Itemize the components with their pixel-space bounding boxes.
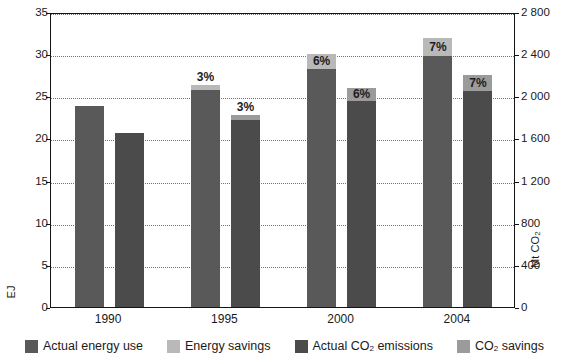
bar-segment-co2-savings	[231, 115, 260, 120]
legend-label: CO2 savings	[475, 340, 544, 353]
legend-swatch-icon	[457, 340, 470, 353]
bar-co2-1990[interactable]	[115, 133, 144, 307]
y-axis-left-tick-label: 0	[0, 302, 48, 314]
legend-label: Actual CO2 emissions	[313, 340, 433, 353]
legend-item-0[interactable]: Actual energy use	[25, 340, 143, 353]
legend-swatch-icon	[25, 340, 38, 353]
y-axis-right-tick-label: 800	[521, 218, 569, 230]
savings-percent-label-inside: 6%	[347, 88, 376, 100]
bar-segment-actual-co2	[463, 91, 492, 307]
y-axis-right-tick-label: 1 200	[521, 176, 569, 188]
plot-inner: 3%3%6%6%7%7%	[51, 14, 514, 307]
legend-label: Energy savings	[185, 340, 270, 353]
y-axis-left-tick-label: 5	[0, 260, 48, 272]
x-axis-tick-label-1995: 1995	[184, 312, 264, 326]
bar-co2-2000[interactable]: 6%	[347, 88, 376, 307]
y-axis-right-tick-mark	[515, 55, 519, 56]
legend-swatch-icon	[295, 340, 308, 353]
plot-area: 3%3%6%6%7%7%	[50, 13, 515, 308]
bar-segment-energy-savings	[191, 85, 220, 91]
y-axis-right-tick-label: 2 000	[521, 91, 569, 103]
y-axis-right-tick-mark	[515, 13, 519, 14]
bar-segment-actual-energy	[75, 106, 104, 307]
y-axis-right-tick-mark	[515, 266, 519, 267]
legend-item-2[interactable]: Actual CO2 emissions	[295, 340, 433, 353]
x-axis-tick-label-1990: 1990	[68, 312, 148, 326]
x-axis-tick-label-2004: 2004	[417, 312, 497, 326]
bar-segment-actual-energy	[423, 56, 452, 307]
y-axis-right-tick-mark	[515, 308, 519, 309]
y-axis-right-tick-mark	[515, 182, 519, 183]
y-axis-left-tick-label: 15	[0, 176, 48, 188]
y-axis-left-tick-label: 10	[0, 218, 48, 230]
y-axis-left-tick-label: 20	[0, 133, 48, 145]
y-axis-left-tick-mark	[46, 308, 50, 309]
legend-label-suffix: savings	[498, 339, 544, 353]
y-axis-right-tick-label: 400	[521, 260, 569, 272]
legend-label-suffix: emissions	[374, 339, 433, 353]
bar-energy-1990[interactable]	[75, 106, 104, 307]
bar-segment-actual-energy	[191, 90, 220, 307]
legend-label-main: Actual CO	[313, 339, 370, 353]
savings-percent-label-above: 3%	[225, 101, 266, 113]
x-axis-tick-label-2000: 2000	[301, 312, 381, 326]
y-axis-left-tick-label: 25	[0, 91, 48, 103]
legend-swatch-icon	[167, 340, 180, 353]
bar-segment-actual-energy	[307, 69, 336, 308]
legend-label-main: Actual energy use	[43, 339, 143, 353]
legend-label: Actual energy use	[43, 340, 143, 353]
chart-figure: EJ Mt CO2 0510152025303504008001 2001 60…	[0, 0, 569, 360]
bar-energy-1995[interactable]: 3%	[191, 85, 220, 308]
y-axis-right-tick-label: 1 600	[521, 133, 569, 145]
y-axis-right-tick-mark	[515, 97, 519, 98]
gridline	[51, 14, 514, 15]
y-axis-right-tick-label: 2 400	[521, 49, 569, 61]
bar-co2-1995[interactable]: 3%	[231, 115, 260, 307]
savings-percent-label-inside: 7%	[463, 77, 492, 89]
y-axis-right-tick-mark	[515, 224, 519, 225]
bar-segment-actual-co2	[231, 120, 260, 308]
y-axis-left-tick-label: 35	[0, 7, 48, 19]
legend-label-main: CO	[475, 339, 494, 353]
legend-item-1[interactable]: Energy savings	[167, 340, 270, 353]
bar-energy-2004[interactable]: 7%	[423, 38, 452, 307]
y-axis-right-tick-mark	[515, 139, 519, 140]
bar-segment-actual-co2	[115, 133, 144, 307]
legend-label-main: Energy savings	[185, 339, 270, 353]
savings-percent-label-inside: 7%	[423, 41, 452, 53]
bar-segment-actual-co2	[347, 101, 376, 308]
bar-energy-2000[interactable]: 6%	[307, 54, 336, 307]
legend-item-3[interactable]: CO2 savings	[457, 340, 544, 353]
y-axis-right-title-subscript: 2	[533, 231, 542, 236]
y-axis-right-tick-label: 0	[521, 302, 569, 314]
bar-co2-2004[interactable]: 7%	[463, 75, 492, 307]
y-axis-right-tick-label: 2 800	[521, 7, 569, 19]
y-axis-left-tick-label: 30	[0, 49, 48, 61]
savings-percent-label-above: 3%	[185, 71, 226, 83]
savings-percent-label-inside: 6%	[307, 55, 336, 67]
chart-legend: Actual energy useEnergy savingsActual CO…	[0, 334, 569, 358]
